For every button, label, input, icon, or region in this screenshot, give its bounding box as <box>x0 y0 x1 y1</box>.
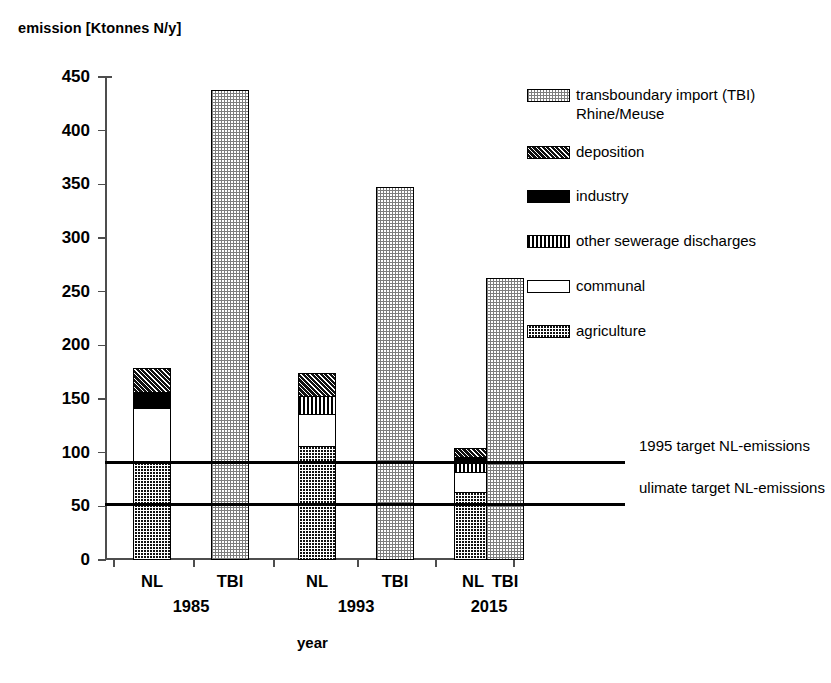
y-tick-label-450: 450 <box>62 67 90 87</box>
bar-segment-sewerage <box>299 397 335 415</box>
x-axis-title: year <box>297 634 328 651</box>
bar-segment-agriculture <box>134 463 170 559</box>
y-tick-250: 250 <box>98 291 106 293</box>
y-tick-label-0: 0 <box>81 550 90 570</box>
y-axis-title: emission [Ktonnes N/y] <box>18 20 181 36</box>
legend-swatch-icon <box>527 89 570 102</box>
legend-swatch-icon <box>527 235 570 248</box>
legend-label: transboundary import (TBI) Rhine/Meuse <box>576 86 755 123</box>
legend-swatch-icon <box>527 325 570 338</box>
y-tick-label-250: 250 <box>62 282 90 302</box>
bar-segment-communal <box>299 415 335 446</box>
legend-label: communal <box>576 277 645 296</box>
y-tick-150: 150 <box>98 398 106 400</box>
bar-segment-industry <box>134 393 170 409</box>
x-tick-0 <box>113 559 115 567</box>
x-tick-3 <box>357 559 359 567</box>
x-category-label-nl-2015: NL <box>462 572 484 591</box>
x-tick-5 <box>513 559 515 567</box>
bar-nl-1993[interactable] <box>298 373 336 560</box>
legend-item-deposition[interactable]: deposition <box>527 143 644 162</box>
chart-figure: emission [Ktonnes N/y] 05010015020025030… <box>0 0 831 683</box>
y-tick-label-100: 100 <box>62 443 90 463</box>
legend-item-communal[interactable]: communal <box>527 277 645 296</box>
legend-swatch-icon <box>527 280 570 293</box>
y-tick-label-350: 350 <box>62 174 90 194</box>
legend-item-industry[interactable]: industry <box>527 187 629 206</box>
reference-line-label-ultimate-target: ulimate target NL-emissions <box>639 479 825 496</box>
reference-line-ultimate-target <box>105 503 625 506</box>
x-category-label-tbi-1985: TBI <box>217 572 244 591</box>
legend-label: other sewerage discharges <box>576 232 756 251</box>
y-tick-label-150: 150 <box>62 389 90 409</box>
y-tick-100: 100 <box>98 452 106 454</box>
y-tick-0: 0 <box>98 559 106 561</box>
reference-line-label-1995-target: 1995 target NL-emissions <box>639 437 810 454</box>
legend-label: industry <box>576 187 629 206</box>
x-category-label-nl-1993: NL <box>306 572 328 591</box>
y-axis-line <box>105 77 107 560</box>
x-tick-2 <box>273 559 275 567</box>
y-tick-400: 400 <box>98 130 106 132</box>
plot-area: 050100150200250300350400450 1995 target … <box>105 77 520 560</box>
legend-label: deposition <box>576 143 644 162</box>
bar-nl-1985[interactable] <box>133 368 171 560</box>
legend-swatch-icon <box>527 146 570 159</box>
y-tick-200: 200 <box>98 345 106 347</box>
y-tick-label-300: 300 <box>62 228 90 248</box>
x-tick-1 <box>193 559 195 567</box>
x-category-label-nl-1985: NL <box>141 572 163 591</box>
legend-swatch-icon <box>527 190 570 203</box>
reference-line-1995-target <box>105 461 625 464</box>
y-tick-label-50: 50 <box>71 496 90 516</box>
bar-segment-tbi <box>487 279 523 559</box>
x-tick-4 <box>435 559 437 567</box>
bar-tbi-1985[interactable] <box>211 90 249 560</box>
legend-item-transboundary-import-tbi[interactable]: transboundary import (TBI) Rhine/Meuse <box>527 86 755 123</box>
x-group-label-2015: 2015 <box>471 597 508 616</box>
y-tick-300: 300 <box>98 237 106 239</box>
x-group-label-1985: 1985 <box>173 597 210 616</box>
bar-segment-deposition <box>299 374 335 398</box>
bar-segment-deposition <box>134 369 170 393</box>
x-group-label-1993: 1993 <box>338 597 375 616</box>
legend-item-other-sewerage-discharges[interactable]: other sewerage discharges <box>527 232 756 251</box>
y-tick-label-200: 200 <box>62 335 90 355</box>
y-tick-label-400: 400 <box>62 121 90 141</box>
bar-segment-communal <box>134 409 170 463</box>
legend-item-agriculture[interactable]: agriculture <box>527 322 646 341</box>
x-category-label-tbi-1993: TBI <box>382 572 409 591</box>
bar-tbi-2015[interactable] <box>486 278 524 560</box>
bar-segment-tbi <box>212 91 248 559</box>
x-category-label-tbi-2015: TBI <box>492 572 519 591</box>
y-tick-350: 350 <box>98 184 106 186</box>
legend-label: agriculture <box>576 322 646 341</box>
y-tick-450: 450 <box>98 76 112 78</box>
